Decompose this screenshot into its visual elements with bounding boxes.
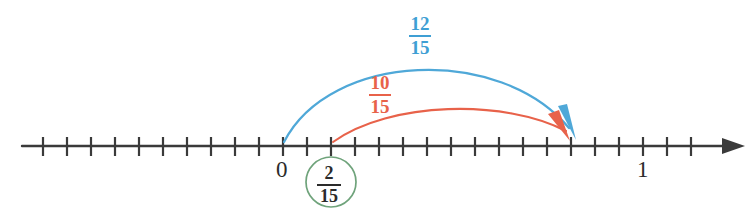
- blue-jump-arc: [284, 70, 569, 142]
- marked-point-denominator: 15: [320, 187, 338, 206]
- number-line-figure: 0 1 2 15 12 15 10 15: [0, 0, 754, 223]
- blue-jump-fraction: 12 15: [409, 14, 431, 58]
- axis-label-one: 1: [637, 158, 649, 181]
- marked-point-fraction: 2 15: [317, 164, 341, 205]
- blue-jump-denominator: 15: [411, 38, 430, 58]
- marked-point-numerator: 2: [325, 164, 334, 183]
- axis-arrow-right-icon: [722, 138, 745, 154]
- axis-label-zero: 0: [276, 158, 288, 181]
- red-jump-fraction: 10 15: [369, 73, 391, 117]
- red-jump-numerator: 10: [371, 73, 390, 93]
- red-jump-denominator: 15: [371, 97, 390, 117]
- red-jump-arc: [333, 109, 566, 142]
- blue-jump-numerator: 12: [411, 14, 430, 34]
